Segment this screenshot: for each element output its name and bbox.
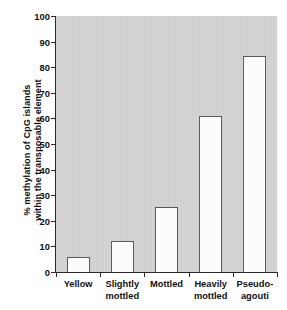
bar <box>111 241 134 272</box>
x-axis-category-labels: YellowSlightlymottledMottledHeavilymottl… <box>56 279 277 309</box>
x-axis-category-label: Slightlymottled <box>100 279 144 302</box>
y-axis-tick-label: 10 <box>22 242 50 251</box>
plot-area <box>56 16 277 272</box>
x-axis-line <box>55 272 278 273</box>
x-axis-category-label: Mottled <box>144 279 188 291</box>
x-axis-category-label-line: agouti <box>233 291 277 303</box>
y-axis-tick-label: 0 <box>22 268 50 277</box>
x-axis-category-label-line: Pseudo- <box>233 279 277 291</box>
y-axis-tick-label: 70 <box>22 88 50 97</box>
y-axis-tick-label: 60 <box>22 114 50 123</box>
bar <box>243 56 266 272</box>
bar <box>155 207 178 272</box>
bar-chart-figure: % methylation of CpG islands within the … <box>0 0 287 310</box>
x-axis-category-label-line: Heavily <box>189 279 233 291</box>
y-axis-tick-label: 100 <box>22 12 50 21</box>
y-axis-tick-labels: 0102030405060708090100 <box>22 0 50 310</box>
x-axis-category-label: Pseudo-agouti <box>233 279 277 302</box>
y-axis-tick-label: 40 <box>22 165 50 174</box>
y-axis-tick-label: 50 <box>22 140 50 149</box>
x-axis-category-label-line: Mottled <box>144 279 188 291</box>
bar <box>67 257 90 272</box>
x-axis-tick-mark <box>100 273 101 277</box>
x-axis-category-label: Yellow <box>56 279 100 291</box>
y-axis-tick-label: 20 <box>22 216 50 225</box>
x-axis-tick-mark <box>56 273 57 277</box>
bar <box>199 116 222 272</box>
x-axis-category-label: Heavilymottled <box>189 279 233 302</box>
x-axis-category-label-line: Slightly <box>100 279 144 291</box>
x-axis-tick-mark <box>189 273 190 277</box>
y-axis-tick-label: 30 <box>22 191 50 200</box>
x-axis-tick-mark <box>277 273 278 277</box>
x-axis-tick-mark <box>233 273 234 277</box>
x-axis-category-label-line: mottled <box>100 291 144 303</box>
x-axis-category-label-line: mottled <box>189 291 233 303</box>
y-axis-tick-label: 90 <box>22 37 50 46</box>
x-axis-tick-mark <box>144 273 145 277</box>
y-axis-tick-label: 80 <box>22 63 50 72</box>
x-axis-category-label-line: Yellow <box>56 279 100 291</box>
